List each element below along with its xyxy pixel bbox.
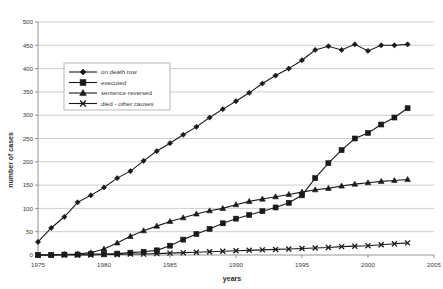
x-tick-label: 1985 (163, 261, 177, 268)
legend-label: sentence reversed (101, 89, 152, 96)
y-tick-label: 400 (23, 65, 34, 72)
data-point-square (352, 136, 357, 141)
series-line (38, 108, 408, 255)
line-chart: 050100150200250300350400450500 197519801… (0, 0, 443, 289)
x-tick-label: 1990 (229, 261, 243, 268)
data-point-diamond (273, 73, 278, 78)
gridlines (38, 22, 434, 232)
data-point-square (273, 205, 278, 210)
data-point-diamond (365, 48, 370, 53)
y-tick-label: 150 (23, 181, 34, 188)
legend-label: executed (101, 79, 127, 86)
data-point-diamond (405, 42, 410, 47)
data-point-square (247, 212, 252, 217)
data-point-square (366, 130, 371, 135)
data-point-diamond (379, 43, 384, 48)
data-point-diamond (220, 107, 225, 112)
data-point-diamond (339, 47, 344, 52)
chart-container: 050100150200250300350400450500 197519801… (0, 0, 443, 289)
data-point-square (80, 80, 86, 86)
x-tick-label: 1975 (31, 261, 45, 268)
data-point-square (234, 216, 239, 221)
x-tick-label: 2005 (427, 261, 441, 268)
data-point-diamond (286, 66, 291, 71)
data-point-diamond (88, 193, 93, 198)
series-executed (36, 106, 411, 258)
y-tick-label: 200 (23, 158, 34, 165)
y-tick-label: 300 (23, 111, 34, 118)
data-point-square (207, 226, 212, 231)
data-point-square (220, 221, 225, 226)
chart-legend: on death rowexecutedsentence reverseddie… (64, 63, 170, 110)
data-point-triangle (405, 177, 411, 182)
data-point-square (392, 115, 397, 120)
data-point-square (181, 237, 186, 242)
data-point-square (313, 176, 318, 181)
data-point-square (326, 161, 331, 166)
data-point-diamond (233, 99, 238, 104)
y-axis-title: number of cases (7, 132, 14, 188)
x-axis-title: years (223, 275, 241, 283)
y-tick-label: 500 (23, 18, 34, 25)
data-point-diamond (392, 43, 397, 48)
y-tick-label: 0 (30, 251, 34, 258)
data-point-diamond (181, 132, 186, 137)
x-tick-label: 2000 (361, 261, 375, 268)
data-point-diamond (167, 141, 172, 146)
series-line (38, 180, 408, 255)
data-point-square (260, 209, 265, 214)
y-tick-label: 450 (23, 42, 34, 49)
y-tick-label: 350 (23, 88, 34, 95)
data-point-square (339, 148, 344, 153)
legend-label: died - other causes (101, 100, 154, 107)
data-point-square (194, 232, 199, 237)
data-point-square (379, 122, 384, 127)
legend-label: on death row (101, 68, 137, 75)
data-point-diamond (352, 42, 357, 47)
data-point-square (286, 200, 291, 205)
y-tick-label: 50 (26, 228, 33, 235)
data-point-diamond (326, 44, 331, 49)
data-point-square (168, 243, 173, 248)
y-tick-label: 100 (23, 205, 34, 212)
x-tick-label: 1980 (97, 261, 111, 268)
x-tick-label: 1995 (295, 261, 309, 268)
data-point-square (405, 106, 410, 111)
y-axis-ticks: 050100150200250300350400450500 (23, 18, 38, 258)
y-tick-label: 250 (23, 135, 34, 142)
